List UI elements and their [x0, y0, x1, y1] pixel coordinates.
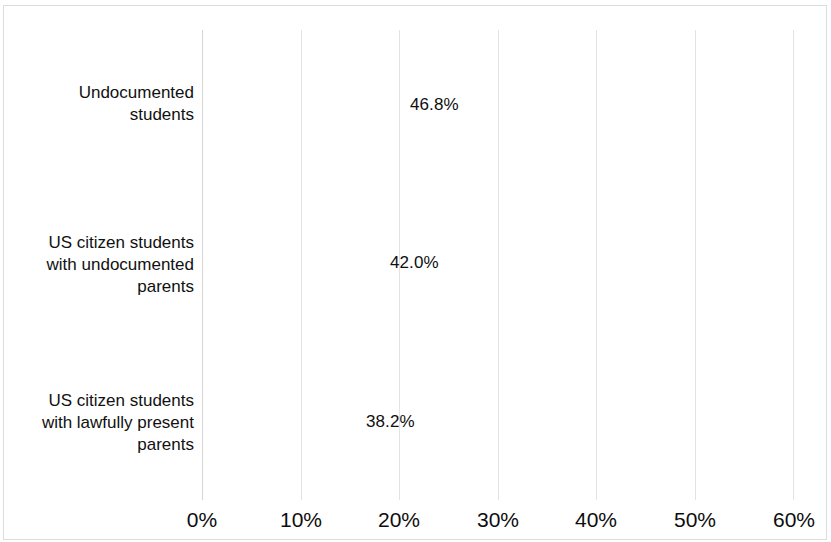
bar-row-0: 46.8% [202, 75, 664, 134]
bar-value-label-2: 38.2% [366, 412, 415, 432]
bar-row-2: 38.2% [202, 392, 579, 452]
x-tick-label-60: 60% [773, 505, 815, 535]
x-tick-label-40: 40% [575, 505, 617, 535]
gridline-60 [793, 30, 794, 500]
gridline-50 [695, 30, 696, 500]
category-label-2: US citizen students with lawfully presen… [4, 390, 194, 456]
x-tick-label-20: 20% [378, 505, 420, 535]
x-tick-label-0: 0% [187, 505, 217, 535]
bar-value-label-1: 42.0% [390, 253, 439, 273]
bar-chart: Undocumented students US citizen student… [0, 0, 831, 542]
category-label-1: US citizen students with undocumented pa… [4, 232, 194, 298]
bar-value-label-0: 46.8% [410, 95, 459, 115]
x-tick-label-30: 30% [477, 505, 519, 535]
x-tick-label-50: 50% [674, 505, 716, 535]
x-axis-tick-labels: 0% 10% 20% 30% 40% 50% 60% [0, 505, 831, 542]
category-label-0: Undocumented students [4, 82, 194, 126]
plot-area: 46.8% 42.0% 38.2% [202, 30, 794, 500]
x-tick-label-10: 10% [280, 505, 322, 535]
bar-row-1: 42.0% [202, 234, 616, 292]
